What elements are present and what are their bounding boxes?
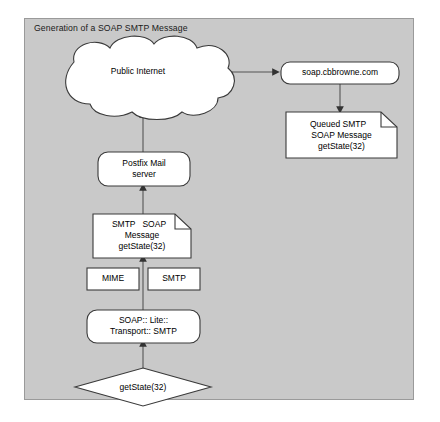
smtp-soap-message-shape: [93, 214, 191, 258]
cloud-shape: [66, 36, 235, 119]
call-shape: [75, 368, 211, 406]
queued-message-shape: [286, 112, 397, 158]
diagram-shapes: [0, 0, 440, 422]
postfix-shape: [98, 152, 190, 186]
mime-shape: [87, 268, 139, 290]
smtp-shape: [148, 268, 200, 290]
diagram-canvas: Generation of a SOAP SMTP Message: [0, 0, 440, 422]
remote-host-shape: [281, 62, 399, 84]
soap-lite-shape: [87, 310, 200, 343]
